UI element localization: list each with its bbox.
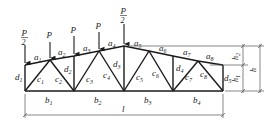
svg-text:c6: c6: [152, 68, 159, 79]
h1-label: h1: [231, 75, 241, 82]
svg-text:d1: d1: [15, 72, 23, 83]
svg-text:a4: a4: [108, 38, 116, 49]
diagonal-c3: [74, 51, 99, 91]
member-labels: a1 a2 a3 a4 a5 a6 a7 a8 b1 b2 b3 b4 c1 c…: [15, 38, 232, 106]
load-label-4: P: [95, 21, 102, 31]
h-label: h: [249, 68, 258, 72]
truss-members: [25, 46, 223, 91]
svg-text:b2: b2: [94, 95, 102, 106]
svg-text:c4: c4: [103, 70, 110, 81]
svg-text:d3: d3: [113, 59, 121, 70]
svg-text:b3: b3: [144, 95, 152, 106]
height-labels: h2 h1 h: [231, 53, 258, 82]
svg-text:d2: d2: [64, 64, 72, 75]
load-label-2: P: [46, 30, 53, 40]
load-label-1-num: P: [21, 28, 28, 38]
load-label-5-den: 2: [121, 16, 125, 25]
load-label-1-den: 2: [22, 38, 26, 47]
span-label: l: [122, 104, 125, 114]
svg-text:c1: c1: [37, 74, 44, 85]
h2-label: h2: [231, 53, 241, 60]
svg-text:a1: a1: [34, 52, 42, 63]
svg-text:a6: a6: [159, 43, 167, 54]
svg-text:c5: c5: [136, 72, 143, 83]
svg-text:a5: a5: [134, 38, 142, 49]
diagonal-c5: [124, 51, 149, 91]
svg-text:c2: c2: [55, 74, 62, 85]
load-label-5-num: P: [120, 6, 127, 16]
svg-text:a3: a3: [83, 43, 91, 54]
svg-text:b1: b1: [45, 95, 53, 106]
truss-diagram: P 2 P P P P 2 a1 a2 a3 a4 a5 a6 a7 a8 b1…: [0, 0, 277, 130]
svg-text:a2: a2: [58, 47, 66, 58]
truss-svg: P 2 P P P P 2 a1 a2 a3 a4 a5 a6 a7 a8 b1…: [0, 0, 277, 130]
diagonal-c2: [50, 60, 74, 91]
load-label-3: P: [70, 25, 77, 35]
svg-text:c7: c7: [185, 72, 193, 83]
svg-text:d4: d4: [176, 63, 184, 74]
svg-text:b4: b4: [193, 95, 201, 106]
svg-text:c3: c3: [86, 74, 93, 85]
svg-text:a7: a7: [183, 47, 192, 58]
svg-text:a8: a8: [206, 51, 214, 62]
